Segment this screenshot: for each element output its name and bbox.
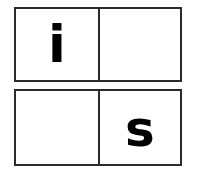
letter-grid: i s	[0, 0, 197, 174]
grid-cell-top-left[interactable]: i	[16, 9, 98, 80]
cell-letter-top-left: i	[48, 18, 66, 70]
cell-letter-bottom-right: s	[125, 104, 155, 154]
grid-row: s	[14, 89, 182, 166]
grid-cell-bottom-right[interactable]: s	[98, 91, 180, 164]
grid-cell-top-right[interactable]	[98, 9, 180, 80]
grid-cell-bottom-left[interactable]	[16, 91, 98, 164]
grid-row: i	[14, 7, 182, 82]
